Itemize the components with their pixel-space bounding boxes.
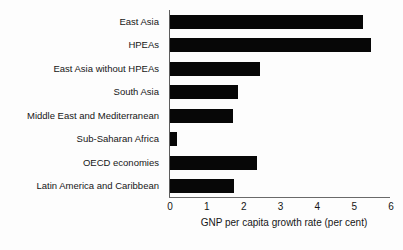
bar [170,38,371,52]
bar [170,109,233,123]
bar [170,132,177,146]
category-axis: East AsiaHPEAsEast Asia without HPEAsSou… [0,10,165,198]
x-tick-label: 4 [307,200,327,213]
category-label: Latin America and Caribbean [36,179,159,193]
bar [170,156,257,170]
value-axis: 0123456 [170,200,391,214]
category-label: OECD economies [83,156,159,170]
category-label: South Asia [114,85,159,99]
category-label: Sub-Saharan Africa [77,132,159,146]
x-tick-label: 0 [160,200,180,213]
bar-chart-figure: East AsiaHPEAsEast Asia without HPEAsSou… [0,0,403,250]
x-tick-label: 1 [197,200,217,213]
bar [170,179,234,193]
x-tick-label: 5 [344,200,364,213]
x-axis-line [169,197,390,198]
bar [170,15,363,29]
bar [170,62,260,76]
x-axis-title: GNP per capita growth rate (per cent) [170,217,398,228]
category-label: HPEAs [128,38,159,52]
x-tick-label: 6 [381,200,401,213]
bar [170,85,238,99]
category-label: East Asia [119,15,159,29]
plot-area [170,10,391,198]
x-tick-label: 2 [234,200,254,213]
category-label: East Asia without HPEAs [53,62,159,76]
category-label: Middle East and Mediterranean [27,109,159,123]
x-tick-label: 3 [271,200,291,213]
